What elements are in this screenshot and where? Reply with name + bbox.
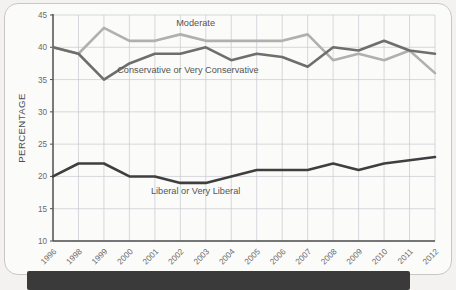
chart-container: 1015202530354045199619981999200020012002… (5, 4, 452, 275)
x-tick-label: 2003 (192, 247, 212, 267)
chart-card: 1015202530354045199619981999200020012002… (4, 3, 452, 275)
line-chart: 1015202530354045199619981999200020012002… (5, 4, 452, 275)
y-tick-label: 35 (38, 76, 48, 85)
series-annotation-moderate: Moderate (176, 18, 215, 28)
caption-banner (27, 271, 410, 290)
x-tick-label: 2001 (141, 247, 161, 267)
y-axis-title: PERCENTAGE (16, 93, 27, 162)
x-tick-label: 2000 (116, 247, 136, 267)
y-tick-label: 15 (38, 205, 48, 214)
x-tick-label: 2012 (421, 247, 441, 267)
x-tick-label: 2007 (294, 247, 314, 267)
x-tick-label: 2004 (217, 247, 237, 267)
x-tick-label: 2009 (345, 247, 365, 267)
x-tick-label: 2006 (268, 247, 288, 267)
x-tick-label: 2008 (319, 247, 339, 267)
x-tick-label: 2010 (370, 247, 390, 267)
x-tick-label: 1999 (90, 247, 110, 267)
y-tick-label: 10 (38, 237, 48, 246)
x-tick-label: 2011 (396, 247, 415, 266)
x-tick-label: 2002 (167, 247, 187, 267)
x-tick-label: 1996 (39, 247, 59, 267)
x-tick-label: 2005 (243, 247, 263, 267)
y-tick-label: 30 (38, 108, 48, 117)
series-annotation-liberal-or-very-liberal: Liberal or Very Liberal (151, 186, 240, 196)
y-tick-label: 25 (38, 140, 48, 149)
series-line-liberal-or-very-liberal (53, 157, 435, 183)
y-tick-label: 45 (38, 11, 48, 20)
x-tick-label: 1998 (65, 247, 85, 267)
series-annotation-conservative-or-very-conservative: Conservative or Very Conservative (117, 65, 258, 75)
y-tick-label: 40 (38, 43, 48, 52)
y-tick-label: 20 (38, 172, 48, 181)
